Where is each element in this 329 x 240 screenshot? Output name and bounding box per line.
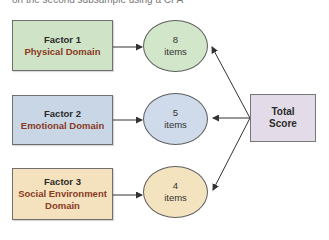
total-line2: Score: [269, 118, 297, 130]
factor-1-title: Factor 1: [44, 34, 81, 46]
factor-1-box: Factor 1 Physical Domain: [12, 20, 113, 71]
factor-2-title: Factor 2: [44, 108, 81, 120]
total-score-box: Total Score: [250, 94, 316, 142]
factor-1-items-label: items: [164, 46, 187, 58]
factor-2-items-label: items: [164, 119, 187, 131]
factor-3-items-label: items: [164, 192, 187, 204]
factor-3-title: Factor 3: [44, 176, 81, 188]
factor-3-domain: Social Environment Domain: [13, 188, 112, 212]
factor-1-domain: Physical Domain: [24, 46, 100, 58]
factor-2-items-oval: 5 items: [143, 93, 208, 145]
factor-3-items-oval: 4 items: [143, 166, 208, 218]
factor-2-count: 5: [173, 107, 178, 119]
total-line1: Total: [271, 106, 294, 118]
factor-1-count: 8: [173, 34, 178, 46]
factor-3-box: Factor 3 Social Environment Domain: [12, 168, 113, 220]
factor-1-items-oval: 8 items: [143, 20, 208, 72]
factor-2-domain: Emotional Domain: [21, 120, 104, 132]
factor-2-box: Factor 2 Emotional Domain: [12, 95, 113, 145]
factor-3-count: 4: [173, 180, 178, 192]
